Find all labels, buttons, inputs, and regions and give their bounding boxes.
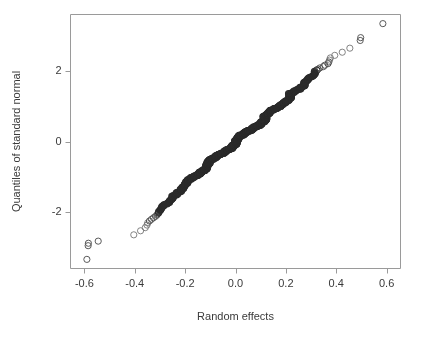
qq-plot: Random effects Quantiles of standard nor…	[0, 0, 425, 340]
qq-plot-canvas	[0, 0, 425, 340]
